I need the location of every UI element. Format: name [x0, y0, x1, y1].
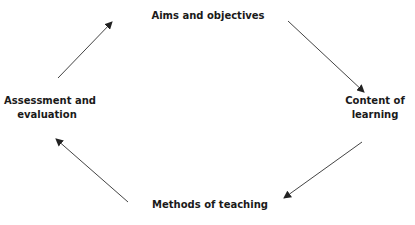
node-aims-and-objectives: Aims and objectives	[150, 9, 266, 23]
arrow-content-to-methods	[284, 142, 362, 198]
node-methods-of-teaching: Methods of teaching	[150, 198, 270, 212]
arrow-aims-to-content	[288, 21, 364, 92]
arrow-assessment-to-aims	[58, 22, 112, 78]
node-label: Aims and objectives	[150, 9, 266, 23]
node-label: Methods of teaching	[150, 198, 270, 212]
node-assessment-and-evaluation: Assessment and evaluation	[4, 94, 90, 122]
node-label-line-1: Assessment and	[4, 94, 90, 108]
node-label-line-2: evaluation	[4, 108, 90, 122]
arrow-methods-to-assessment	[56, 139, 128, 202]
node-label-line-1: Content of	[340, 94, 410, 108]
node-label-line-2: learning	[340, 108, 410, 122]
node-content-of-learning: Content of learning	[340, 94, 410, 122]
